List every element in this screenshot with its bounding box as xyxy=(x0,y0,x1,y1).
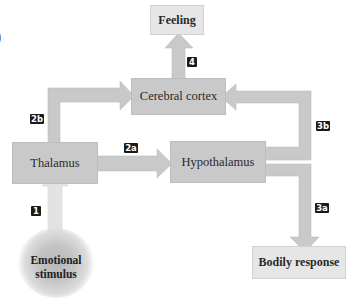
node-thalamus: Thalamus xyxy=(12,142,98,184)
node-stimulus-label: Emotional stimulus xyxy=(18,253,94,281)
node-cortex-label: Cerebral cortex xyxy=(140,89,217,104)
arrow-2a-icon xyxy=(97,149,172,178)
arrow-4-icon xyxy=(165,33,193,79)
node-hypothalamus: Hypothalamus xyxy=(170,141,266,183)
arrow-2b-icon xyxy=(48,81,134,143)
node-feeling-label: Feeling xyxy=(158,13,195,28)
step-tag-2a: 2a xyxy=(124,143,138,153)
node-feeling: Feeling xyxy=(150,5,204,35)
step-tag-3a: 3a xyxy=(315,203,329,213)
node-cerebral-cortex: Cerebral cortex xyxy=(131,78,226,115)
node-thalamus-label: Thalamus xyxy=(30,156,79,171)
node-bodily-response: Bodily response xyxy=(252,246,346,279)
step-tag-4: 4 xyxy=(187,57,197,67)
arrow-3a-icon xyxy=(265,164,319,252)
node-hypothalamus-label: Hypothalamus xyxy=(182,155,255,170)
stimulus-line-1: Emotional xyxy=(18,253,94,267)
step-tag-2b: 2b xyxy=(30,114,44,124)
step-tag-3b: 3b xyxy=(316,121,330,131)
node-bodily-label: Bodily response xyxy=(259,255,340,270)
stimulus-line-2: stimulus xyxy=(18,267,94,281)
step-tag-1: 1 xyxy=(31,206,41,216)
